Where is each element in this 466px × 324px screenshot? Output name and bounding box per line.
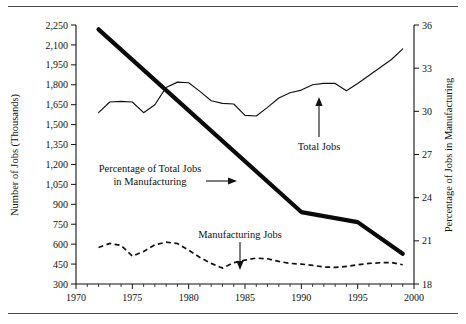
y-axis-title: Number of Jobs (Thousands) xyxy=(9,93,21,216)
left-axis-ticks xyxy=(71,25,76,284)
chart-canvas: 3004506007509001,0501,2001,3501,5001,650… xyxy=(0,0,466,324)
left-ticklabel: 300 xyxy=(53,279,68,290)
left-ticklabel: 900 xyxy=(53,199,68,210)
right-ticklabel: 24 xyxy=(422,192,432,203)
x-ticklabel: 1970 xyxy=(66,292,86,303)
y2-axis-title: Percentage of Jobs in Manufacturing xyxy=(443,77,454,232)
left-ticklabel: 1,800 xyxy=(46,79,69,90)
left-ticklabel: 750 xyxy=(53,219,68,230)
x-ticklabel: 1980 xyxy=(179,292,199,303)
left-ticklabel: 1,650 xyxy=(46,99,69,110)
left-ticklabel: 1,050 xyxy=(46,179,69,190)
manufacturing-jobs-arrow-head xyxy=(236,261,243,270)
left-ticklabel: 1,500 xyxy=(46,119,69,130)
percentage-arrow-head xyxy=(228,177,237,184)
percentage-label-line1: Percentage of Total Jobs xyxy=(99,163,202,174)
right-ticklabel: 21 xyxy=(422,235,432,246)
series-manufacturing-jobs xyxy=(99,242,403,268)
bottom-axis-ticklabels: 1970197519801985199019952000 xyxy=(66,292,424,303)
chart-figure: 3004506007509001,0501,2001,3501,5001,650… xyxy=(0,0,466,324)
left-ticklabel: 450 xyxy=(53,259,68,270)
annotation-percentage: Percentage of Total Jobs in Manufacturin… xyxy=(99,163,237,187)
left-ticklabel: 2,250 xyxy=(46,20,69,31)
annotation-total-jobs: Total Jobs xyxy=(298,97,341,152)
x-ticklabel: 1985 xyxy=(235,292,255,303)
left-ticklabel: 1,350 xyxy=(46,139,69,150)
series-total-jobs xyxy=(99,49,403,116)
right-axis-ticks xyxy=(414,25,419,284)
right-axis-ticklabels: 18212427303336 xyxy=(422,20,432,290)
left-ticklabel: 2,100 xyxy=(46,40,69,51)
right-ticklabel: 27 xyxy=(422,149,432,160)
right-ticklabel: 36 xyxy=(422,20,432,31)
x-ticklabel: 1995 xyxy=(348,292,368,303)
left-ticklabel: 1,200 xyxy=(46,159,69,170)
x-ticklabel: 1990 xyxy=(291,292,311,303)
manufacturing-jobs-label: Manufacturing Jobs xyxy=(198,229,282,240)
left-axis-ticklabels: 3004506007509001,0501,2001,3501,5001,650… xyxy=(46,20,69,290)
total-jobs-label: Total Jobs xyxy=(298,141,341,152)
left-ticklabel: 600 xyxy=(53,239,68,250)
series-percentage-manufacturing xyxy=(99,29,403,253)
right-ticklabel: 30 xyxy=(422,106,432,117)
right-ticklabel: 33 xyxy=(422,63,432,74)
total-jobs-arrow-head xyxy=(315,97,322,106)
x-ticklabel: 2000 xyxy=(404,292,424,303)
x-ticklabel: 1975 xyxy=(122,292,142,303)
left-ticklabel: 1,950 xyxy=(46,59,69,70)
percentage-label-line2: in Manufacturing xyxy=(113,176,187,187)
right-ticklabel: 18 xyxy=(422,279,432,290)
axes-group xyxy=(76,25,414,284)
bottom-axis-ticks xyxy=(76,284,414,289)
